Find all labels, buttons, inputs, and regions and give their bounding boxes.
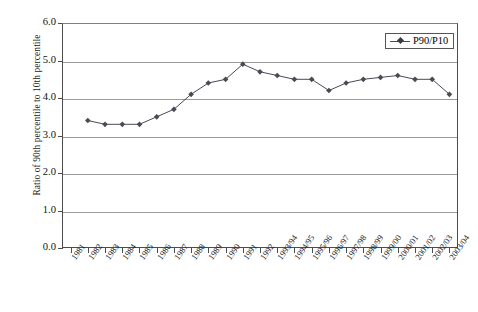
data-point-marker	[119, 121, 125, 127]
y-tick-label: 0.0	[22, 241, 56, 252]
legend: P90/P10	[385, 33, 454, 49]
data-point-marker	[102, 121, 108, 127]
data-point-marker	[85, 118, 91, 124]
legend-marker-icon	[390, 37, 410, 46]
data-point-marker	[395, 73, 401, 79]
data-point-marker	[360, 76, 366, 82]
data-point-marker	[309, 76, 315, 82]
chart-container: Ratio of 90th percentile to 10th percent…	[0, 0, 478, 312]
y-tick-label: 2.0	[22, 166, 56, 177]
y-tick-label: 3.0	[22, 129, 56, 140]
data-point-marker	[257, 69, 263, 75]
y-tick-label: 4.0	[22, 91, 56, 102]
data-point-marker	[326, 88, 332, 94]
y-tick-label: 5.0	[22, 54, 56, 65]
data-point-marker	[412, 76, 418, 82]
data-point-marker	[292, 76, 298, 82]
data-point-marker	[137, 121, 143, 127]
y-tick-label: 6.0	[22, 16, 56, 27]
data-point-marker	[205, 80, 211, 86]
data-point-marker	[378, 75, 384, 81]
data-point-marker	[274, 73, 280, 79]
data-point-marker	[154, 114, 160, 120]
legend-label-p90p10: P90/P10	[413, 36, 448, 46]
data-point-marker	[343, 80, 349, 86]
series-line-p90p10	[62, 23, 458, 248]
series-line	[88, 64, 450, 124]
y-tick-mark	[58, 248, 63, 249]
y-tick-label: 1.0	[22, 204, 56, 215]
